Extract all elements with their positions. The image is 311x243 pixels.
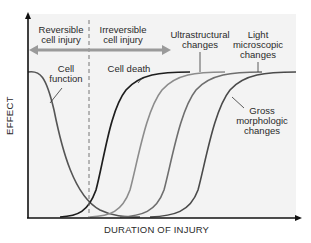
- label-reversible-line2: cell injury: [34, 35, 88, 45]
- label-cell-death: Cell death: [102, 64, 156, 74]
- curve-cell-death: [60, 72, 190, 217]
- curve-ultrastructural: [90, 72, 225, 217]
- y-axis-arrowhead: [25, 12, 31, 19]
- x-axis-arrowhead: [295, 215, 302, 221]
- cell-injury-diagram: Reversible cell injury Irreversible cell…: [0, 0, 311, 243]
- label-gross-morphologic-line3: changes: [230, 126, 294, 136]
- label-gross-morphologic: Gross morphologic changes: [230, 106, 294, 136]
- label-ultrastructural: Ultrastructural changes: [164, 30, 236, 50]
- label-ultrastructural-line2: changes: [164, 40, 236, 50]
- label-irreversible: Irreversible cell injury: [92, 25, 154, 45]
- label-reversible: Reversible cell injury: [34, 25, 88, 45]
- label-cell-death-line1: Cell death: [102, 64, 156, 74]
- label-irreversible-line2: cell injury: [92, 35, 154, 45]
- curve-gross-morphologic: [150, 72, 296, 217]
- label-light-microscopic-line3: changes: [228, 50, 288, 60]
- label-light-microscopic: Light microscopic changes: [228, 30, 288, 60]
- label-cell-function-line2: function: [44, 74, 88, 84]
- label-cell-function: Cell function: [44, 64, 88, 84]
- arrow-left-head: [29, 45, 38, 55]
- y-axis-label: EFFECT: [4, 96, 15, 135]
- leader-cell-function: [50, 88, 62, 103]
- x-axis-label: DURATION OF INJURY: [104, 224, 209, 235]
